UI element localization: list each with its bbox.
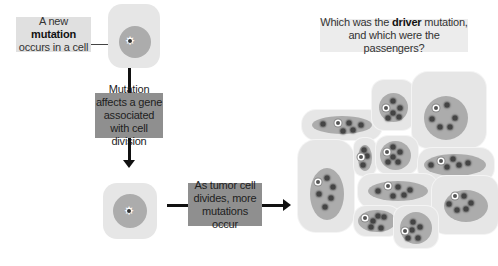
divides-label: As tumor cell divides, more mutations oc…	[188, 183, 262, 226]
passenger-mutation-dot	[406, 236, 411, 241]
passenger-mutation-dot	[323, 205, 328, 210]
driver-mutation-dot	[359, 155, 363, 159]
passenger-mutation-dot	[347, 121, 352, 126]
passenger-mutation-dot	[391, 111, 396, 116]
passenger-mutation-dot	[453, 116, 458, 121]
passenger-mutation-dot	[391, 155, 396, 160]
new-mutation-label: A new mutation occurs in a cell	[16, 17, 91, 52]
driver-mutation-dot	[386, 184, 390, 188]
new-mutation-text: A new mutation occurs in a cell	[16, 15, 91, 54]
passenger-mutation-dot	[391, 145, 396, 150]
affects-gene-label: Mutation affects a gene associated with …	[95, 93, 163, 138]
passenger-mutation-dot	[391, 99, 396, 104]
passenger-mutation-dot	[325, 176, 330, 181]
passenger-mutation-dot	[382, 215, 387, 220]
passenger-mutation-dot	[402, 193, 407, 198]
new-mutation-pre: A new	[39, 15, 68, 27]
passenger-mutation-dot	[469, 201, 474, 206]
question-label: Which was the driver mutation, and which…	[320, 19, 468, 52]
driver-mutation-dot	[385, 150, 389, 154]
passenger-mutation-dot	[398, 106, 403, 111]
passenger-mutation-dot	[391, 194, 396, 199]
passenger-mutation-dot	[376, 214, 381, 219]
passenger-mutation-dot	[457, 163, 462, 168]
passenger-mutation-dot	[455, 208, 460, 213]
passenger-mutation-dot	[398, 150, 403, 155]
right-arrow-shaft-1	[167, 204, 188, 207]
passenger-mutation-dot	[396, 160, 401, 165]
passenger-mutation-dot	[386, 116, 391, 121]
down-arrow-shaft-2	[128, 138, 131, 162]
passenger-mutation-dot	[411, 220, 416, 225]
passenger-mutation-dot	[447, 202, 452, 207]
new-mutation-post: occurs in a cell	[19, 41, 89, 53]
right-arrow-shaft-2	[262, 204, 284, 207]
driver-mutation-dot-2	[127, 209, 131, 213]
passenger-mutation-dot	[451, 157, 456, 162]
passenger-mutation-dot	[329, 196, 334, 201]
passenger-mutation-dot	[331, 185, 336, 190]
passenger-mutation-dot	[386, 160, 391, 165]
passenger-mutation-dot	[430, 117, 435, 122]
passenger-mutation-dot	[396, 185, 401, 190]
passenger-mutation-dot	[438, 125, 443, 130]
passenger-mutation-dot	[445, 103, 450, 108]
passenger-mutation-dot	[464, 207, 469, 212]
passenger-mutation-dot	[351, 128, 356, 133]
passenger-mutation-dot	[317, 192, 322, 197]
passenger-mutation-dot	[365, 154, 370, 159]
passenger-mutation-dot	[466, 161, 471, 166]
question-text: Which was the driver mutation, and which…	[320, 16, 468, 55]
passenger-mutation-dot	[416, 236, 421, 241]
passenger-mutation-dot	[448, 125, 453, 130]
passenger-mutation-dot	[362, 148, 367, 153]
passenger-mutation-dot	[376, 189, 381, 194]
passenger-mutation-dot	[418, 225, 423, 230]
driver-mutation-dot	[434, 106, 438, 110]
driver-mutation-dot	[439, 159, 443, 163]
driver-mutation-dot	[336, 121, 340, 125]
passenger-mutation-dot	[369, 225, 374, 230]
passenger-mutation-dot	[361, 163, 366, 168]
divides-text: As tumor cell divides, more mutations oc…	[188, 179, 262, 231]
driver-mutation-dot	[403, 229, 407, 233]
new-mutation-bold: mutation	[31, 28, 76, 40]
passenger-mutation-dot	[371, 219, 376, 224]
question-bold: driver	[392, 16, 421, 28]
passenger-mutation-dot	[410, 228, 415, 233]
driver-mutation-dot	[384, 106, 388, 110]
driver-mutation-dot	[316, 180, 320, 184]
driver-mutation-dot	[363, 216, 367, 220]
original-cell-nucleus	[119, 26, 151, 58]
passenger-mutation-dot	[429, 163, 434, 168]
driver-mutation-dot	[453, 194, 457, 198]
passenger-mutation-dot	[397, 115, 402, 120]
tumor-cell-nucleus	[380, 141, 411, 170]
passenger-mutation-dot	[408, 188, 413, 193]
right-arrowhead-icon	[283, 199, 291, 211]
question-pre: Which was the	[320, 16, 392, 28]
passenger-mutation-dot	[359, 123, 364, 128]
driver-mutation-dot	[128, 39, 132, 43]
passenger-mutation-dot	[321, 122, 326, 127]
passenger-mutation-dot	[445, 165, 450, 170]
down-arrowhead-icon	[123, 160, 135, 168]
passenger-mutation-dot	[379, 226, 384, 231]
passenger-mutation-dot	[462, 194, 467, 199]
passenger-mutation-dot	[341, 129, 346, 134]
